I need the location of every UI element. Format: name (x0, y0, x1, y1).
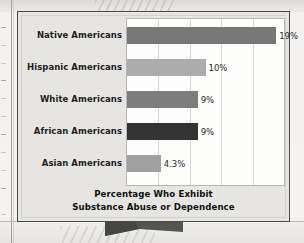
page-margin-rule-secondary (13, 0, 14, 243)
chart-row: African Americans (22, 115, 285, 147)
chart-row: Native Americans (22, 19, 285, 51)
category-label: Native Americans (22, 19, 122, 51)
margin-tick (1, 63, 6, 64)
category-label: White Americans (22, 83, 122, 115)
margin-tick (1, 80, 6, 81)
margin-tick (1, 170, 6, 171)
chart-row: Hispanic Americans (22, 51, 285, 83)
figure-panel: 19%10%9%9%4.3% Native AmericansHispanic … (17, 11, 290, 222)
margin-tick (1, 134, 6, 135)
category-label: Hispanic Americans (22, 51, 122, 83)
figure-caption: Percentage Who Exhibit Substance Abuse o… (22, 188, 285, 213)
category-label: African Americans (22, 115, 122, 147)
chart-row: Asian Americans (22, 147, 285, 179)
margin-tick (1, 27, 6, 28)
margin-tick (1, 152, 6, 153)
margin-tick (1, 98, 6, 99)
margin-tick (1, 214, 6, 215)
category-label: Asian Americans (22, 147, 122, 179)
margin-tick (1, 45, 6, 46)
chart-row: White Americans (22, 83, 285, 115)
page-margin-rule (11, 0, 12, 243)
caption-line-2: Substance Abuse or Dependence (22, 201, 285, 214)
caption-line-1: Percentage Who Exhibit (22, 188, 285, 201)
margin-tick (1, 116, 6, 117)
bar-chart: 19%10%9%9%4.3% Native AmericansHispanic … (22, 18, 285, 186)
margin-tick (1, 188, 6, 189)
